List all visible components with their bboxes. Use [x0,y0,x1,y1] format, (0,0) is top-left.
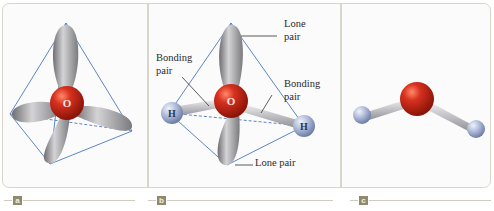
panel-tag-b: b [157,196,166,205]
label-bonding-right-line2: pair [284,92,300,102]
footer-line-b [167,200,333,201]
label-lone-pair-top-line2: pair [284,32,300,42]
label-lone-pair-top-line1: Lone [284,19,306,29]
hydrogen-symbol-right: H [300,121,308,132]
oxygen-atom [400,82,434,116]
label-bonding-right-line1: Bonding [284,79,320,89]
panel-tag-a: a [13,196,22,205]
bond-right [239,103,301,129]
oxygen-symbol: O [63,97,72,109]
footer-line-b-lead [148,200,156,201]
hydrogen-atom-left [353,106,371,124]
lobe-bottom [218,111,240,165]
label-bonding-left-line1: Bonding [156,53,192,63]
lobe-right [74,106,132,131]
hydrogen-symbol-left: H [168,108,176,119]
hydrogen-atom-right [467,120,485,138]
oxygen-symbol: O [227,95,236,107]
label-lone-pair-bottom: Lone pair [255,158,296,168]
panel-c-diagram [342,3,490,183]
panel-tag-c: c [359,196,368,205]
footer-line-c-lead [350,200,358,201]
label-bonding-left-line2: pair [156,66,172,76]
footer-line-a [23,200,135,201]
panel-b-diagram: O H H [149,3,339,183]
panel-a-diagram: O [4,3,146,183]
footer-line-c [369,200,491,201]
footer-line-a-lead [4,200,12,201]
